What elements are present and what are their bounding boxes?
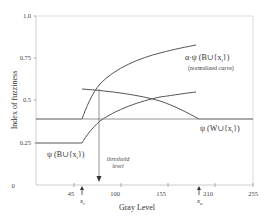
curve-alpha-psi-b bbox=[36, 45, 196, 119]
up-arrow-icon bbox=[197, 186, 201, 190]
threshold-marker: threshold level bbox=[97, 89, 131, 182]
threshold-arrow-icon bbox=[97, 176, 102, 182]
up-arrow-icon bbox=[80, 186, 84, 190]
x-tick-100: 100 bbox=[110, 190, 120, 197]
fuzziness-chart: 1.0 0.75 0.5 0.25 0 45 100 155 210 255 G… bbox=[0, 0, 271, 219]
marker-xr-label: xr bbox=[79, 197, 85, 206]
y-tick-0-75: 0.75 bbox=[20, 54, 31, 61]
label-psi-w: ψ (W∪{xi}) bbox=[200, 124, 240, 134]
x-tick-45: 45 bbox=[68, 190, 75, 197]
x-tick-155: 155 bbox=[156, 190, 166, 197]
label-psi-b: ψ (B∪{xi}) bbox=[47, 150, 85, 160]
y-tick-0-25: 0.25 bbox=[20, 139, 31, 146]
curve-psi-b bbox=[36, 92, 196, 143]
x-axis-title: Gray Level bbox=[119, 203, 156, 212]
curve-psi-w bbox=[82, 89, 253, 119]
marker-xu: xu bbox=[196, 186, 203, 206]
label-normalized-curve: (normalized curve) bbox=[188, 65, 234, 72]
chart-root: 1.0 0.75 0.5 0.25 0 45 100 155 210 255 G… bbox=[0, 0, 271, 219]
x-tick-255: 255 bbox=[248, 190, 258, 197]
y-tick-0-5: 0.5 bbox=[23, 96, 31, 103]
label-alpha-psi-b: α·ψ (B∪{xi}) bbox=[185, 53, 230, 63]
marker-xr: xr bbox=[79, 186, 85, 206]
y-axis-title: Index of fuzziness bbox=[10, 71, 19, 130]
x-tick-210: 210 bbox=[203, 190, 213, 197]
threshold-label-line2: level bbox=[112, 163, 124, 169]
y-tick-0: 0 bbox=[11, 182, 14, 189]
marker-xu-label: xu bbox=[196, 197, 203, 206]
threshold-label-line1: threshold bbox=[107, 156, 130, 162]
y-tick-1-0: 1.0 bbox=[23, 12, 31, 19]
